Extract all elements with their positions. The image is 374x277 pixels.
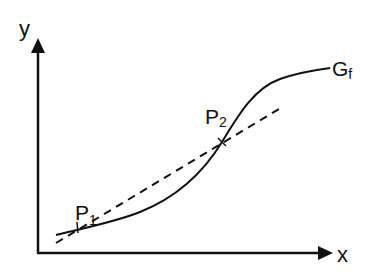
y-axis-arrowhead <box>31 38 45 53</box>
point-p2-label: P2 <box>205 105 227 130</box>
function-curve <box>56 68 330 235</box>
y-axis-label: y <box>19 16 30 41</box>
point-p1-label: P1 <box>75 201 97 228</box>
x-axis-label: x <box>337 242 348 267</box>
x-axis-arrowhead <box>318 246 333 260</box>
curve-label: Gf <box>332 57 352 82</box>
function-graph-diagram: y x P1 P2 Gf <box>0 0 374 277</box>
